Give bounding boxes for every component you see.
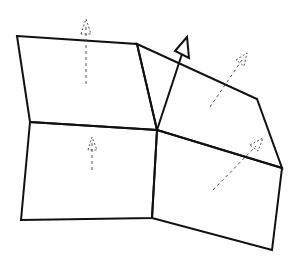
diagram-canvas: Vertex normal from adjacent face normals <box>0 0 299 264</box>
background <box>0 0 299 264</box>
mesh-diagram: Vertex normal from adjacent face normals <box>0 0 299 264</box>
